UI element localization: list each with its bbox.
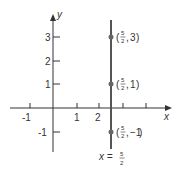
svg-text:,: ,	[126, 79, 129, 90]
point-label: ( 5 2 , −1 )	[116, 125, 142, 139]
svg-text:2: 2	[121, 38, 125, 44]
x-tick-label: 2	[95, 112, 101, 123]
svg-text:): )	[136, 79, 139, 90]
x-tick-label: 1	[74, 112, 80, 123]
svg-text:(: (	[116, 127, 120, 138]
y-tick-label: 2	[45, 56, 51, 67]
x-ticks	[30, 103, 146, 108]
coordinate-plane: -1 1 2 3 2 1 -1 x y ( 5 2 , 3 ) ( 5 2 , …	[0, 0, 179, 170]
line-equation-label: x = 5 2	[98, 151, 125, 166]
y-tick-label: 1	[45, 79, 51, 90]
svg-text:2: 2	[120, 160, 124, 166]
point-marker	[109, 130, 114, 135]
svg-text:(: (	[116, 79, 120, 90]
y-axis-label: y	[56, 9, 63, 20]
svg-text:5: 5	[121, 77, 125, 83]
point-label: ( 5 2 , 1 )	[116, 77, 139, 91]
y-tick-label: -1	[38, 127, 47, 138]
x-axis-label: x	[163, 111, 170, 122]
y-ticks	[53, 37, 60, 132]
svg-text:(: (	[116, 32, 120, 43]
svg-text:2: 2	[121, 133, 125, 139]
svg-text:5: 5	[120, 151, 124, 157]
svg-text:): )	[139, 127, 142, 138]
svg-text:5: 5	[121, 125, 125, 131]
x-tick-label: -1	[22, 112, 31, 123]
svg-text:,: ,	[126, 127, 129, 138]
point-label: ( 5 2 , 3 )	[116, 30, 139, 44]
svg-text:,: ,	[126, 32, 129, 43]
point-marker	[109, 82, 114, 87]
svg-text:2: 2	[121, 85, 125, 91]
svg-text:5: 5	[121, 30, 125, 36]
svg-text:): )	[136, 32, 139, 43]
svg-text:x =: x =	[98, 151, 113, 162]
y-tick-label: 3	[45, 32, 51, 43]
point-marker	[109, 35, 114, 40]
y-axis-arrow-icon	[50, 14, 56, 21]
